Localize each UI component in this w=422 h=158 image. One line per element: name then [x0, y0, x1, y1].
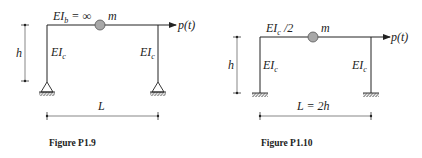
- frame: [260, 37, 390, 93]
- frame: [47, 25, 176, 82]
- pinned-support-right-icon: [150, 82, 166, 96]
- fixed-support-right-icon: [363, 93, 379, 97]
- figure-p1-9: EIb = ∞ m p(t) EIc EIc h L Figure P1.9: [16, 9, 195, 148]
- height-label: h: [16, 46, 22, 60]
- mass-label: m: [108, 9, 117, 23]
- beam-stiffness-label: EIc /2: [265, 21, 293, 37]
- left-column-stiffness-label: EIc: [262, 58, 278, 74]
- fixed-support-left-icon: [252, 93, 268, 97]
- load-label: p(t): [177, 18, 195, 32]
- figure-caption: Figure P1.9: [49, 138, 96, 148]
- right-column-stiffness-label: EIc: [139, 45, 155, 61]
- load-label: p(t): [390, 30, 408, 44]
- mass-icon: [95, 20, 105, 30]
- mass-label: m: [321, 21, 330, 35]
- figure-p1-10: EIc /2 m p(t) EIc EIc h L = 2h Figure P1…: [228, 21, 408, 148]
- pinned-support-left-icon: [39, 82, 55, 96]
- height-dimension: [21, 24, 29, 82]
- beam-stiffness-label: EIb = ∞: [52, 9, 91, 25]
- left-column-stiffness-label: EIc: [50, 45, 66, 61]
- span-label: L = 2h: [296, 99, 330, 113]
- figure-caption: Figure P1.10: [261, 138, 313, 148]
- height-dimension: [233, 36, 241, 94]
- span-label: L: [97, 99, 105, 113]
- right-column-stiffness-label: EIc: [351, 58, 367, 74]
- span-dimension: [259, 112, 372, 120]
- height-label: h: [228, 58, 234, 72]
- span-dimension: [46, 112, 159, 120]
- diagram-canvas: EIb = ∞ m p(t) EIc EIc h L Figure P1.9: [0, 0, 422, 158]
- mass-icon: [308, 32, 318, 42]
